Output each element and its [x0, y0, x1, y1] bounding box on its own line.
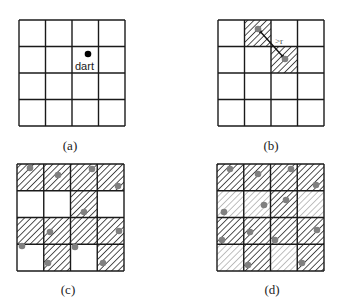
sample-dot	[89, 166, 96, 173]
sample-dot	[282, 56, 289, 63]
grid-cell	[244, 164, 271, 191]
sample-dot	[45, 260, 52, 267]
grid-cell	[298, 73, 325, 100]
sample-dot	[100, 260, 107, 267]
sample-dot	[72, 244, 79, 251]
grid-cell	[245, 20, 272, 47]
grid-cell	[46, 47, 73, 74]
grid-cell	[245, 73, 272, 100]
sample-dot	[116, 228, 123, 235]
grid-cell	[297, 164, 324, 191]
sample-dot	[47, 229, 54, 236]
dart-dot	[85, 51, 92, 58]
grid-cell	[218, 47, 245, 74]
grid-cell	[298, 20, 325, 47]
sample-dot	[255, 26, 262, 33]
grid-cell	[99, 73, 126, 100]
panel-d	[217, 164, 324, 271]
grid-cell	[19, 47, 46, 74]
grid-cell	[271, 73, 298, 100]
sample-dot	[272, 237, 279, 244]
sample-dot	[299, 260, 306, 267]
grid-cell	[46, 73, 73, 100]
grid-cell	[19, 73, 46, 100]
sample-dot	[314, 227, 321, 234]
grid-cell	[46, 20, 73, 47]
grid-cell	[99, 100, 126, 127]
grid-cell	[71, 218, 98, 245]
caption-d: (d)	[264, 282, 279, 298]
sample-dot	[219, 237, 226, 244]
grid-cell	[97, 191, 124, 218]
caption-c: (c)	[61, 282, 75, 298]
panel-c	[17, 164, 124, 271]
sample-dot	[255, 171, 262, 178]
sample-dot	[288, 166, 295, 173]
sample-dot	[247, 229, 254, 236]
sample-dot	[227, 166, 234, 173]
grid-cell	[298, 47, 325, 74]
grid-cell	[271, 244, 298, 271]
grid-cell	[17, 218, 44, 245]
dart-throwing-diagram	[0, 0, 341, 308]
panel-b	[218, 20, 324, 126]
dart-label: dart	[75, 60, 94, 72]
grid-cell	[19, 20, 46, 47]
grid-cell	[44, 244, 71, 271]
sample-dot	[27, 165, 34, 172]
sample-dot	[245, 262, 252, 269]
grid-cell	[218, 20, 245, 47]
grid-cell	[245, 100, 272, 127]
grid-cell	[245, 47, 272, 74]
grid-cell	[44, 191, 71, 218]
grid-cell	[271, 191, 298, 218]
grid-cell	[72, 73, 99, 100]
sample-dot	[283, 197, 290, 204]
sample-dot	[19, 243, 26, 250]
panel-a	[19, 20, 125, 126]
distance-label: >r	[275, 36, 283, 46]
grid-cell	[99, 20, 126, 47]
sample-dot	[115, 183, 122, 190]
grid-cell	[298, 100, 325, 127]
grid-cell	[271, 100, 298, 127]
sample-dot	[313, 182, 320, 189]
grid-cell	[72, 20, 99, 47]
grid-cell	[217, 191, 244, 218]
grid-cell	[97, 244, 124, 271]
grid-cell	[218, 100, 245, 127]
sample-dot	[55, 172, 62, 179]
grid-cell	[218, 73, 245, 100]
grid-cell	[46, 100, 73, 127]
grid-cell	[297, 244, 324, 271]
grid-cell	[17, 191, 44, 218]
grid-cell	[217, 244, 244, 271]
grid-cell	[99, 47, 126, 74]
grid-cell	[72, 100, 99, 127]
sample-dot	[81, 209, 88, 216]
caption-b: (b)	[263, 138, 278, 154]
grid-cell	[19, 100, 46, 127]
sample-dot	[261, 202, 268, 209]
caption-a: (a)	[63, 138, 77, 154]
grid-cell	[297, 191, 324, 218]
sample-dot	[221, 209, 228, 216]
